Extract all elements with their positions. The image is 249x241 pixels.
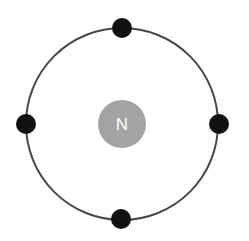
electron-top [112,18,132,38]
atom-diagram: N [0,0,249,241]
electron-left [16,114,36,134]
electron-bottom [111,209,131,229]
electron-right [209,114,229,134]
nucleus-label: N [116,115,128,134]
